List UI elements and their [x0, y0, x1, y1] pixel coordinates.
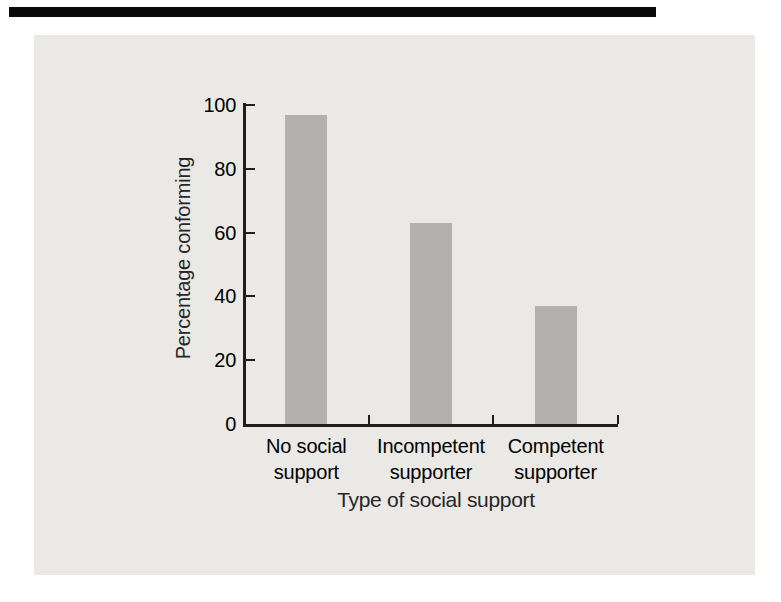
y-tick [246, 168, 255, 170]
y-tick [246, 295, 255, 297]
scan-artifact-bar [9, 7, 656, 17]
x-tick [492, 415, 494, 424]
y-axis-title: Percentage conforming [170, 58, 196, 458]
page: 020406080100 No socialsupportIncompetent… [0, 0, 781, 602]
x-tick [368, 415, 370, 424]
y-tick [246, 104, 255, 106]
x-axis-title: Type of social support [286, 487, 586, 513]
x-tick [617, 415, 619, 424]
bar [535, 306, 577, 424]
y-tick [246, 232, 255, 234]
category-label-line: Competent [468, 433, 644, 459]
bar [285, 115, 327, 424]
category-label: Competentsupporter [468, 433, 644, 485]
x-axis-line [243, 424, 618, 427]
y-axis-line [243, 103, 246, 427]
y-tick [246, 359, 255, 361]
category-label-line: supporter [468, 459, 644, 485]
bar [410, 223, 452, 424]
